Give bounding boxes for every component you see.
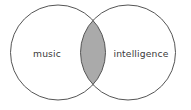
venn-diagram-figure: music intelligence bbox=[0, 0, 191, 110]
venn-diagram-canvas: music intelligence bbox=[0, 0, 191, 110]
venn-label-left: music bbox=[33, 48, 61, 59]
venn-label-right: intelligence bbox=[113, 48, 168, 59]
